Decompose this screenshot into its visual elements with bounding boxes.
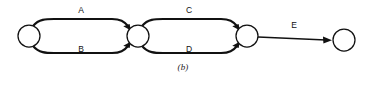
- node-3-circle: [236, 25, 258, 47]
- arc-b-label: B: [78, 44, 84, 54]
- arc-b-group: B: [33, 42, 131, 55]
- arc-a-group: A: [33, 5, 131, 30]
- arc-d-group: D: [142, 42, 240, 55]
- arc-e-arrowhead: [323, 37, 332, 44]
- node-1-circle: [18, 25, 40, 47]
- arc-c-group: C: [142, 5, 240, 30]
- node-4-circle: [333, 29, 355, 51]
- arc-c-path: [142, 19, 238, 27]
- arc-c-label: C: [186, 5, 192, 15]
- arc-e-path: [258, 37, 326, 40]
- node-2-circle: [127, 25, 149, 47]
- network-diagram: A B C D E: [0, 0, 366, 85]
- arc-a-path: [33, 19, 129, 27]
- arc-e-group: E: [258, 20, 332, 43]
- figure-container: A B C D E (b): [0, 0, 366, 85]
- arc-a-label: A: [78, 5, 84, 15]
- arc-d-label: D: [186, 44, 192, 54]
- arc-e-label: E: [291, 20, 297, 30]
- figure-caption: (b): [0, 62, 366, 72]
